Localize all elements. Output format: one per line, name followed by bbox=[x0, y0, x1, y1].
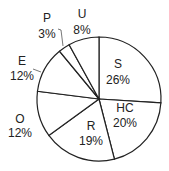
pie-slice-s bbox=[99, 37, 161, 103]
slice-name-r: R bbox=[87, 119, 96, 133]
slice-name-u: U bbox=[78, 7, 87, 21]
slice-percent-p: 3% bbox=[38, 27, 56, 41]
slice-percent-s: 26% bbox=[106, 73, 130, 87]
slice-percent-o: 12% bbox=[8, 126, 32, 140]
slice-percent-e: 12% bbox=[10, 69, 34, 83]
slice-name-s: S bbox=[114, 57, 122, 71]
leader-line-e bbox=[33, 69, 41, 72]
slice-name-hc: HC bbox=[116, 101, 134, 115]
pie-chart: S26%HC20%R19%O12%E12%P3%U8% bbox=[0, 0, 169, 171]
slice-percent-hc: 20% bbox=[113, 116, 137, 130]
leader-line-p bbox=[58, 29, 63, 46]
slice-name-o: O bbox=[15, 112, 24, 126]
slice-percent-r: 19% bbox=[79, 134, 103, 148]
slice-percent-u: 8% bbox=[73, 23, 91, 37]
slice-name-e: E bbox=[18, 54, 26, 68]
slice-name-p: P bbox=[43, 11, 51, 25]
